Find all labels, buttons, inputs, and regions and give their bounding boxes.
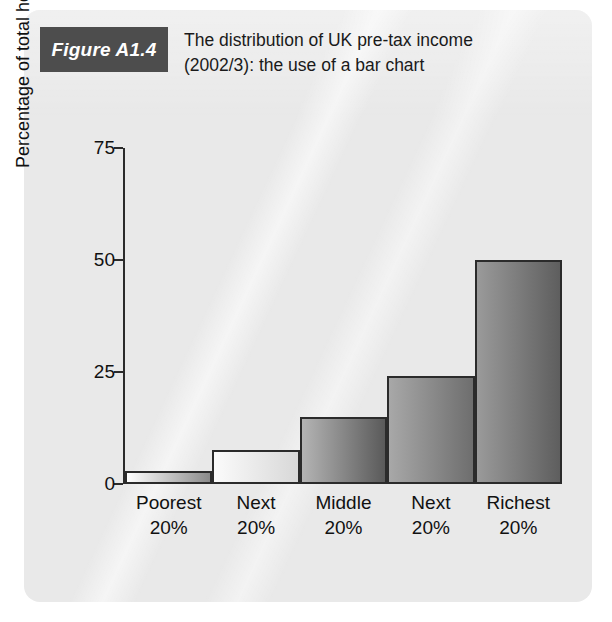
x-axis-label-line: 20% [387,515,474,540]
x-axis-label-2: Next20% [212,490,299,540]
bar-5 [475,260,562,484]
bar-series [125,148,562,484]
y-axis-title: Percentage of total household income [13,0,34,168]
bar-2 [212,450,299,484]
y-axis-tick [114,371,123,373]
x-axis-label-line: 20% [212,515,299,540]
x-axis-label-line: Richest [475,490,562,515]
figure-panel: Figure A1.4 The distribution of UK pre-t… [24,10,592,602]
y-axis-tick-label: 0 [104,474,115,493]
y-axis-tick-label: 50 [94,250,115,269]
x-axis-label-line: Next [387,490,474,515]
x-axis-label-line: 20% [475,515,562,540]
x-axis-label-line: Middle [300,490,387,515]
bar-3 [300,417,387,484]
y-axis-tick-label: 75 [94,138,115,157]
x-axis-label-3: Middle20% [300,490,387,540]
x-axis-label-5: Richest20% [475,490,562,540]
figure-header: Figure A1.4 The distribution of UK pre-t… [24,10,592,90]
x-axis-label-line: Next [212,490,299,515]
y-axis-tick [114,483,123,485]
plot-area: Percentage of total household income 025… [123,138,562,484]
bar-4 [387,376,474,484]
x-axis-label-line: 20% [300,515,387,540]
figure-title-line-2: (2002/3): the use of a bar chart [184,53,574,78]
figure-title: The distribution of UK pre-tax income (2… [184,28,574,78]
y-axis-tick-label: 25 [94,362,115,381]
x-axis-label-4: Next20% [387,490,474,540]
y-axis-tick [114,147,123,149]
x-axis-label-1: Poorest20% [125,490,212,540]
figure-number-badge: Figure A1.4 [40,27,168,72]
x-axis-label-line: 20% [125,515,212,540]
x-axis-label-line: Poorest [125,490,212,515]
y-axis-tick-labels: 0255075 [57,138,115,484]
bar-1 [125,471,212,484]
figure-title-line-1: The distribution of UK pre-tax income [184,28,574,53]
x-axis-tick-labels: Poorest20%Next20%Middle20%Next20%Richest… [125,490,562,546]
y-axis-tick [114,259,123,261]
